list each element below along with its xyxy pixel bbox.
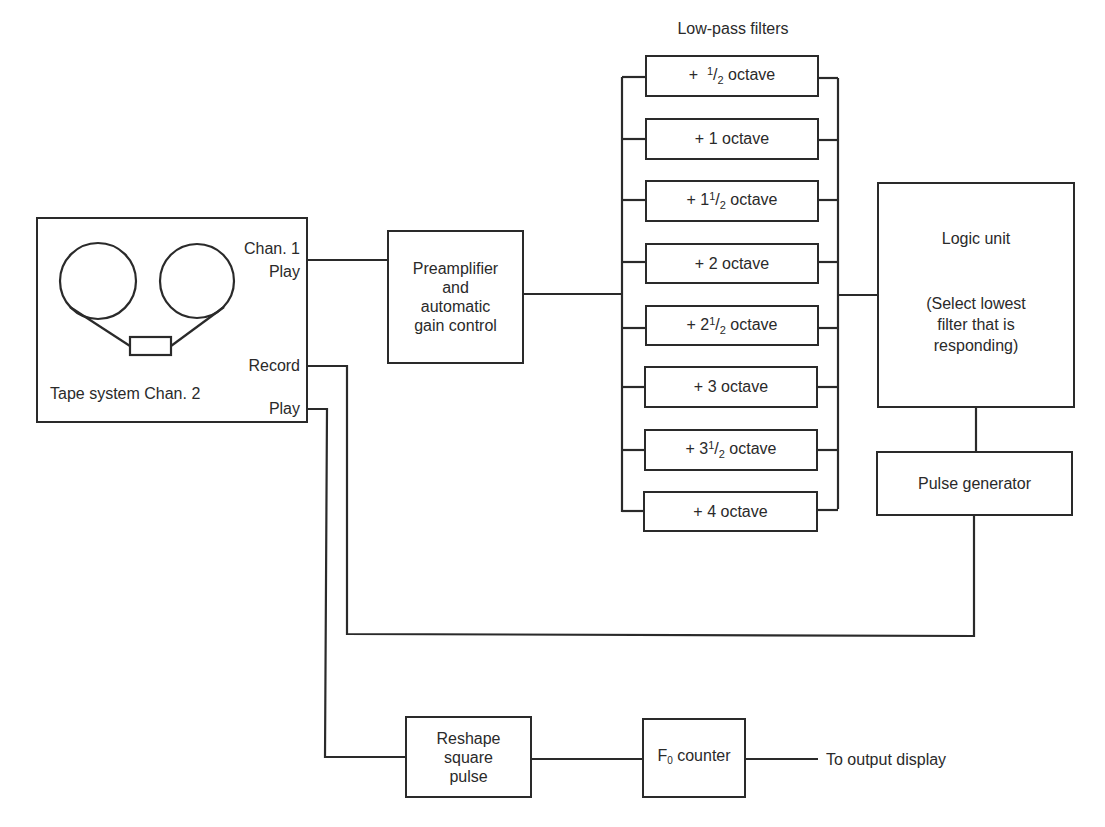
filter-label: + 4 octave	[693, 503, 767, 521]
preamp-line: gain control	[414, 316, 497, 335]
reshape-line: square	[444, 748, 493, 767]
preamp-line: and	[442, 278, 469, 297]
filter-box-half-octave: + 1/2 octave	[645, 55, 819, 97]
pulse-generator-box: Pulse generator	[876, 451, 1073, 516]
preamp-box: Preamplifier and automatic gain control	[387, 230, 524, 364]
wire-play-to-reshape	[307, 409, 405, 757]
filter-box-1-5-octave: + 11/2 octave	[645, 180, 819, 222]
preamp-line: Preamplifier	[413, 259, 498, 278]
play-port-label: Play	[220, 399, 300, 418]
chan1-play-label: Play	[220, 262, 300, 281]
chan1-label: Chan. 1	[220, 239, 300, 258]
pulse-generator-label: Pulse generator	[918, 474, 1031, 493]
filter-label: + 2 octave	[695, 255, 769, 273]
filter-box-2-5-octave: + 21/2 octave	[645, 305, 819, 346]
f0-counter-label: F0 counter	[657, 746, 730, 770]
filter-box-4-octave: + 4 octave	[643, 491, 818, 532]
f0-counter-box: F0 counter	[642, 718, 746, 798]
logic-unit-desc: responding)	[879, 336, 1073, 355]
output-display-label: To output display	[826, 750, 946, 769]
filter-label: + 3 octave	[694, 378, 768, 396]
filter-box-3-octave: + 3 octave	[644, 366, 818, 408]
filter-label: + 11/2 octave	[687, 190, 778, 211]
reshape-box: Reshape square pulse	[405, 716, 532, 798]
tape-system-label: Tape system Chan. 2	[50, 384, 200, 403]
filter-box-1-octave: + 1 octave	[645, 118, 819, 160]
filter-label: + 1 octave	[695, 130, 769, 148]
filter-label: + 1/2 octave	[689, 65, 776, 86]
filter-label: + 21/2 octave	[687, 315, 778, 336]
logic-unit-title: Logic unit	[879, 229, 1073, 248]
record-port-label: Record	[220, 356, 300, 375]
filter-box-2-octave: + 2 octave	[645, 243, 819, 284]
filter-label: + 31/2 octave	[686, 439, 777, 460]
wire-pulse-to-record	[307, 366, 974, 636]
filter-box-3-5-octave: + 31/2 octave	[644, 429, 818, 471]
reshape-line: pulse	[449, 767, 487, 786]
logic-unit-box: Logic unit (Select lowest filter that is…	[877, 182, 1075, 408]
logic-unit-desc: (Select lowest	[879, 294, 1073, 313]
filters-title: Low-pass filters	[668, 19, 798, 38]
preamp-line: automatic	[421, 297, 490, 316]
reshape-line: Reshape	[436, 729, 500, 748]
logic-unit-desc: filter that is	[879, 315, 1073, 334]
